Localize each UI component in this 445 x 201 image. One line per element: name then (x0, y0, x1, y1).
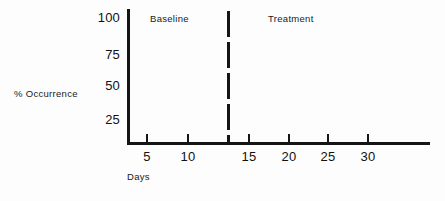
x-tick-label-15: 15 (229, 150, 269, 163)
x-tick-label-30: 30 (348, 150, 388, 163)
x-tick-mark-10 (187, 134, 189, 143)
x-tick-mark-30 (367, 134, 369, 143)
x-tick-mark-5 (146, 134, 148, 143)
y-tick-label-100: 100 (88, 11, 120, 24)
y-axis-line (127, 9, 130, 145)
phase-change-dashed-line (227, 11, 230, 143)
y-tick-label-75: 75 (88, 48, 120, 61)
x-axis-title: Days (127, 171, 150, 182)
y-tick-label-50: 50 (88, 79, 120, 92)
x-tick-label-20: 20 (269, 150, 309, 163)
single-subject-phase-chart: 100 75 50 25 5 10 15 20 25 30 % Occurren… (0, 0, 445, 201)
y-axis-tick-labels: 100 75 50 25 (88, 0, 120, 145)
y-axis-title: % Occurrence (14, 88, 78, 99)
x-tick-mark-15 (248, 134, 250, 143)
x-tick-mark-20 (288, 134, 290, 143)
x-tick-mark-25 (327, 134, 329, 143)
treatment-phase-label: Treatment (268, 13, 314, 24)
x-tick-label-5: 5 (127, 150, 167, 163)
baseline-phase-label: Baseline (150, 13, 189, 24)
x-tick-label-10: 10 (168, 150, 208, 163)
y-tick-label-25: 25 (88, 113, 120, 126)
x-axis-line (127, 142, 430, 145)
x-tick-label-25: 25 (308, 150, 348, 163)
